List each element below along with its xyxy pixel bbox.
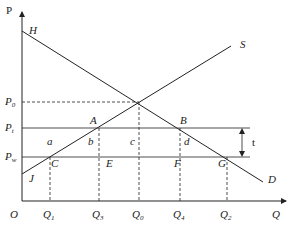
point-b: B <box>180 114 187 126</box>
area-c: c <box>130 135 135 147</box>
q1-label: Q1 <box>43 208 54 222</box>
economics-diagram: P Q O P0 Pt Pw Q1 Q3 Q0 Q4 Q2 H D J S A … <box>0 0 292 227</box>
area-a: a <box>47 135 53 147</box>
origin-label: O <box>10 208 18 220</box>
point-c: C <box>51 157 59 169</box>
q4-label: Q4 <box>173 208 185 222</box>
supply-start-label: J <box>29 172 35 184</box>
pt-label: Pt <box>4 121 15 135</box>
point-f: F <box>173 157 181 169</box>
tariff-arrow-up-icon <box>239 128 245 134</box>
p0-label: P0 <box>4 95 16 109</box>
point-a: A <box>89 114 97 126</box>
area-d: d <box>184 135 190 147</box>
q3-label: Q3 <box>92 208 104 222</box>
area-b: b <box>88 135 94 147</box>
point-e: E <box>105 157 113 169</box>
tariff-label: t <box>252 136 255 148</box>
supply-curve <box>22 46 231 174</box>
demand-start-label: H <box>28 24 38 36</box>
x-axis-label: Q <box>272 208 280 220</box>
y-axis-label: P <box>6 4 12 16</box>
tariff-arrow-down-icon <box>239 151 245 157</box>
q2-label: Q2 <box>220 208 232 222</box>
demand-end-label: D <box>267 173 276 185</box>
pw-label: Pw <box>4 150 17 164</box>
supply-end-label: S <box>240 38 246 50</box>
q0-label: Q0 <box>132 208 144 222</box>
point-g: G <box>218 157 226 169</box>
